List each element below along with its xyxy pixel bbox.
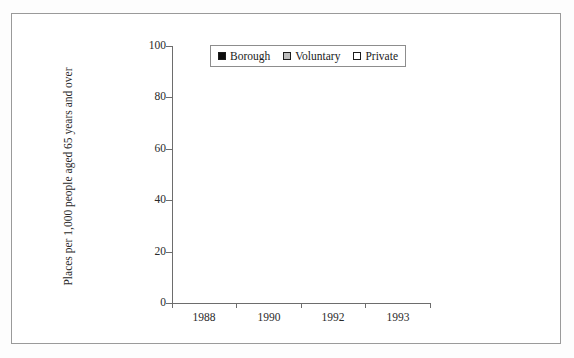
y-axis-title: Places per 1,000 people aged 65 years an… xyxy=(62,32,75,322)
legend-swatch-voluntary-icon xyxy=(283,52,291,60)
y-tick-mark xyxy=(166,252,173,253)
legend-label-voluntary: Voluntary xyxy=(295,50,340,62)
x-axis-label-1988: 1988 xyxy=(174,310,234,324)
x-tick-mark xyxy=(236,303,237,308)
y-tick-0: 0 xyxy=(130,303,166,304)
x-tick-mark xyxy=(430,303,431,308)
y-tick-label: 80 xyxy=(136,91,166,103)
y-tick-label: 0 xyxy=(136,297,166,309)
y-tick-mark xyxy=(166,97,173,98)
y-tick-60: 60 xyxy=(130,149,166,150)
y-tick-100: 100 xyxy=(130,46,166,47)
legend-swatch-borough-icon xyxy=(218,52,226,60)
legend-label-borough: Borough xyxy=(230,50,270,62)
y-tick-mark xyxy=(166,46,173,47)
y-tick-label: 60 xyxy=(136,143,166,155)
y-tick-label: 100 xyxy=(136,40,166,52)
legend-item-borough[interactable]: Borough xyxy=(218,50,270,62)
x-tick-mark xyxy=(301,303,302,308)
legend-label-private: Private xyxy=(365,50,398,62)
y-tick-80: 80 xyxy=(130,97,166,98)
y-tick-40: 40 xyxy=(130,200,166,201)
legend-item-private[interactable]: Private xyxy=(353,50,398,62)
y-tick-20: 20 xyxy=(130,252,166,253)
y-tick-label: 20 xyxy=(136,246,166,258)
x-axis-label-1990: 1990 xyxy=(239,310,299,324)
x-tick-mark xyxy=(172,303,173,308)
legend-item-voluntary[interactable]: Voluntary xyxy=(283,50,340,62)
figure-container: Places per 1,000 people aged 65 years an… xyxy=(0,0,574,358)
x-axis-label-1992: 1992 xyxy=(303,310,363,324)
y-tick-mark xyxy=(166,149,173,150)
x-tick-mark xyxy=(365,303,366,308)
chart-legend: Borough Voluntary Private xyxy=(210,45,406,67)
chart-plot-area: Places per 1,000 people aged 65 years an… xyxy=(0,0,574,358)
y-tick-mark xyxy=(166,200,173,201)
x-axis-label-1993: 1993 xyxy=(368,310,428,324)
legend-swatch-private-icon xyxy=(353,52,361,60)
y-axis-line xyxy=(172,46,173,304)
y-tick-label: 40 xyxy=(136,194,166,206)
